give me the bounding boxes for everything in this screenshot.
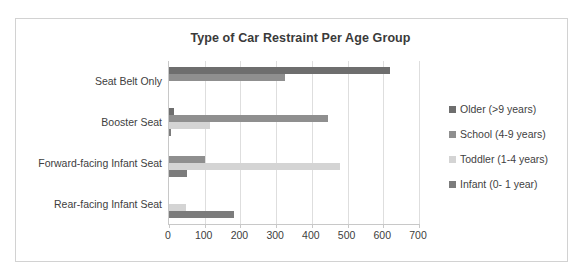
x-tick-label: 200	[231, 229, 249, 241]
legend-swatch-icon	[449, 106, 456, 113]
category-row: Seat Belt Only	[169, 61, 419, 102]
bar	[169, 163, 340, 170]
x-tick-label: 400	[302, 229, 320, 241]
bar	[169, 156, 205, 163]
category-row: Forward-facing Infant Seat	[169, 143, 419, 184]
axis-tick	[383, 224, 384, 228]
legend-label: Older (>9 years)	[460, 103, 536, 115]
chart-title: Type of Car Restraint Per Age Group	[16, 31, 567, 45]
legend-item[interactable]: Older (>9 years)	[449, 103, 567, 115]
axis-tick	[276, 224, 277, 228]
x-tick-label: 600	[374, 229, 392, 241]
bar	[169, 122, 210, 129]
axis-tick	[205, 224, 206, 228]
legend-swatch-icon	[449, 181, 456, 188]
axis-tick	[419, 224, 420, 228]
bar-group	[169, 102, 419, 143]
category-label: Booster Seat	[101, 116, 162, 128]
legend-item[interactable]: School (4-9 years)	[449, 128, 567, 140]
bar	[169, 115, 328, 122]
x-tick-label: 0	[165, 229, 171, 241]
legend-item[interactable]: Toddler (1-4 years)	[449, 153, 567, 165]
legend-swatch-icon	[449, 156, 456, 163]
x-tick-label: 100	[195, 229, 213, 241]
legend-label: Toddler (1-4 years)	[460, 153, 548, 165]
bar	[169, 170, 187, 177]
category-label: Seat Belt Only	[95, 75, 162, 87]
chart-legend: Older (>9 years)School (4-9 years)Toddle…	[449, 103, 567, 203]
axis-tick	[240, 224, 241, 228]
bar	[169, 74, 285, 81]
bar	[169, 108, 174, 115]
legend-label: School (4-9 years)	[460, 128, 546, 140]
legend-swatch-icon	[449, 131, 456, 138]
bar-group	[169, 143, 419, 184]
bar-group	[169, 183, 419, 224]
x-tick-label: 700	[409, 229, 427, 241]
bar	[169, 67, 390, 74]
axis-tick	[169, 224, 170, 228]
category-row: Booster Seat	[169, 102, 419, 143]
legend-item[interactable]: Infant (0- 1 year)	[449, 178, 567, 190]
x-tick-label: 300	[266, 229, 284, 241]
axis-tick	[348, 224, 349, 228]
legend-label: Infant (0- 1 year)	[460, 178, 538, 190]
x-axis-tick-labels: 0100200300400500600700	[168, 229, 419, 247]
bar	[169, 211, 234, 218]
bar	[169, 204, 186, 211]
axis-tick	[312, 224, 313, 228]
bar	[169, 129, 171, 136]
x-tick-label: 500	[338, 229, 356, 241]
chart-frame: Type of Car Restraint Per Age Group Seat…	[15, 18, 568, 262]
category-label: Rear-facing Infant Seat	[54, 198, 162, 210]
plot-area: Seat Belt OnlyBooster SeatForward-facing…	[168, 61, 419, 225]
category-row: Rear-facing Infant Seat	[169, 183, 419, 224]
gridline	[419, 61, 420, 224]
bar-group	[169, 61, 419, 102]
category-label: Forward-facing Infant Seat	[38, 157, 162, 169]
